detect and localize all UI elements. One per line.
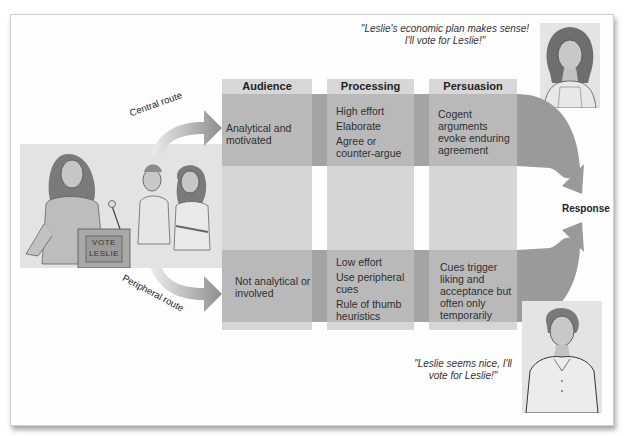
bottom-audience (222, 322, 312, 330)
central-processing-text: High effort Elaborate Agree or counter-a… (336, 105, 414, 162)
response-label: Response (562, 203, 610, 214)
central-band-gap-2 (414, 94, 429, 166)
peripheral-processing-item: Low effort (336, 256, 412, 268)
podium-sign-line2: LESLIE (86, 248, 122, 259)
central-route-arrow-icon (148, 106, 224, 156)
central-persuasion-text: Cogent arguments evoke enduring agreemen… (438, 108, 514, 156)
quote-peripheral: "Leslie seems nice, I'll vote for Leslie… (408, 358, 518, 382)
central-processing-item: High effort (336, 105, 414, 117)
candidate-illustration: VOTE LESLIE (20, 144, 222, 268)
central-processing-item: Elaborate (336, 120, 414, 132)
middle-audience (222, 166, 312, 250)
peripheral-processing-item: Use peripheral cues (336, 271, 412, 295)
central-audience-text: Analytical and motivated (226, 122, 310, 146)
podium-sign-line1: VOTE (86, 237, 122, 248)
peripheral-persuasion-text: Cues trigger liking and acceptance but o… (440, 261, 516, 321)
header-processing: Processing (327, 79, 414, 94)
portrait-man (522, 301, 602, 413)
central-processing-item: Agree or counter-argue (336, 135, 414, 159)
peripheral-processing-item: Rule of thumb heuristics (336, 298, 412, 322)
quote-central: "Leslie's economic plan makes sense! I'l… (360, 23, 530, 47)
podium-sign-text: VOTE LESLIE (86, 237, 122, 259)
header-audience: Audience (222, 79, 312, 94)
peripheral-band-gap-1 (312, 250, 327, 322)
peripheral-audience-text: Not analytical or involved (235, 275, 311, 299)
central-band-gap-1 (312, 94, 327, 166)
middle-processing (327, 166, 414, 250)
man-illustration-icon (522, 301, 602, 413)
peripheral-band-gap-2 (414, 250, 429, 322)
peripheral-processing-text: Low effort Use peripheral cues Rule of t… (336, 256, 412, 325)
